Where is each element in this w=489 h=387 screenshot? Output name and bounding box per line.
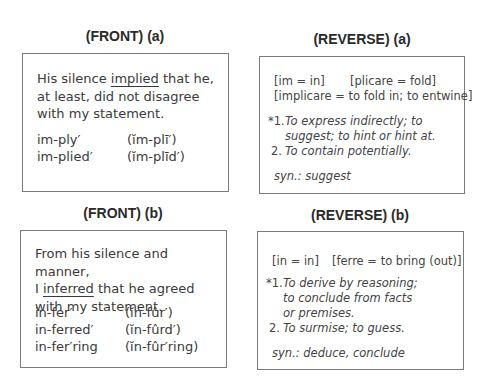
pronunciation-row: im-ply′ (ĭm-plī′) [37,131,227,148]
keyword-implied: implied [111,71,159,86]
etymology-prefix: [in = in] [272,254,319,269]
synonyms: syn.: deduce, conclude [272,346,405,361]
flashcard-reverse-a: [im = in] [plicare = fold] [implicare = … [259,56,465,194]
definition-item: *1. To derive by reasoning; to conclude … [266,276,457,321]
syllabified-word: in-fer′ [35,304,72,322]
pronunciation-row: in-ferred′ (ĭn-fûrd′) [35,321,225,338]
heading-reverse-b: (REVERSE) (b) [255,207,465,223]
heading-front-b: (FRONT) (b) [18,205,228,221]
etymology-prefix: [im = in] [274,74,325,89]
pronunciation-row: im-plied′ (ĭm-plīd′) [37,148,227,165]
sentence-text: I [35,281,43,296]
definition-item: *1. To express indirectly; to suggest; t… [268,114,458,144]
keyword-inferred: inferred [43,281,94,296]
pronunciation: (ĭm-plī′) [127,131,177,149]
definition-number: *1. [266,276,283,291]
example-sentence: His silence implied that he, at least, d… [37,70,220,123]
definition-text: or premises. [283,306,457,321]
pronunciation: (ĭn-fûrd′) [125,321,181,339]
pronunciation: (ĭn-fûr′) [125,304,173,322]
definition-text: To derive by reasoning; [283,276,457,291]
sentence-text: From his silence and manner, [35,245,218,280]
etymology-root: [plicare = fold] [350,74,436,89]
pronunciation-row: in-fer′ring (ĭn-fûr′ring) [35,338,225,355]
definition-text: To surmise; to guess. [283,321,457,336]
flashcard-front-b: From his silence and manner, I inferred … [20,230,227,368]
flashcard-reverse-b: [in = in] [ferre = to bring (out)] *1. T… [257,231,464,370]
etymology-row: [in = in] [ferre = to bring (out)] [272,254,467,269]
definition-item: 2. To contain potentially. [268,144,458,159]
etymology-root: [ferre = to bring (out)] [332,254,462,269]
heading-reverse-a: (REVERSE) (a) [257,31,467,47]
pronunciation-row: in-fer′ (ĭn-fûr′) [35,304,225,321]
definition-item: 2. To surmise; to guess. [266,321,457,336]
syllabified-word: im-ply′ [37,131,80,149]
flashcard-front-a: His silence implied that he, at least, d… [22,53,229,192]
syllabified-word: in-ferred′ [35,321,94,339]
etymology-row: [im = in] [plicare = fold] [274,74,464,89]
definition-text: To express indirectly; to [285,114,458,129]
heading-front-a: (FRONT) (a) [20,28,230,44]
pronunciation: (ĭn-fûr′ring) [125,338,198,356]
syllabified-word: im-plied′ [37,148,93,166]
definitions-list: *1. To express indirectly; to suggest; t… [268,114,458,159]
etymology-row: [implicare = to fold in; to entwine] [274,89,464,104]
definition-number: 2. [271,144,282,159]
definition-text: suggest; to hint or hint at. [285,129,458,144]
definition-number: *1. [268,114,285,129]
definition-text: To contain potentially. [285,144,458,159]
definition-text: to conclude from facts [283,291,457,306]
definition-number: 2. [269,321,280,336]
syllabified-word: in-fer′ring [35,338,98,356]
pronunciation: (ĭm-plīd′) [127,148,185,166]
sentence-text: His silence [37,71,111,86]
synonyms: syn.: suggest [274,169,351,184]
definitions-list: *1. To derive by reasoning; to conclude … [266,276,457,336]
etymology-combined: [implicare = to fold in; to entwine] [274,89,472,104]
